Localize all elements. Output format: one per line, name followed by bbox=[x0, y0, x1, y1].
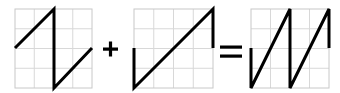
panel-ramp bbox=[134, 9, 213, 88]
panel-sawtooth-down bbox=[15, 9, 92, 88]
plus-icon bbox=[103, 42, 118, 57]
diagram-svg bbox=[0, 0, 340, 93]
wave-addition-diagram bbox=[0, 0, 340, 93]
equals-icon bbox=[220, 46, 242, 58]
panel-sum bbox=[251, 9, 329, 88]
